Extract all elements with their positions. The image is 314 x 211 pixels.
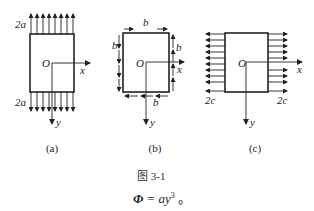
x-axis-label-a: x — [79, 64, 85, 76]
left-load-arrows-c — [206, 34, 225, 91]
origin-label-a: O — [42, 57, 50, 69]
subfigure-c — [206, 33, 302, 124]
top-load-label-a: 2a — [15, 18, 27, 30]
y-axis-label-b: y — [149, 116, 155, 128]
y-axis-label-c: y — [249, 116, 255, 128]
right-load-label-c: 2c — [277, 94, 288, 106]
figure-caption: 图 3-1 — [137, 167, 165, 183]
subfigure-label-a: (a) — [46, 142, 59, 155]
right-load-label-b: b — [176, 41, 182, 53]
top-load-label-b: b — [143, 16, 149, 28]
subfigure-label-c: (c) — [249, 142, 262, 155]
top-load-arrows-a — [31, 14, 73, 34]
left-load-label-c: 2c — [205, 94, 216, 106]
formula-rhs: = ay — [143, 191, 171, 206]
x-axis-label-b: x — [176, 63, 182, 75]
subfigure-b — [119, 29, 184, 124]
formula-period: 。 — [175, 191, 191, 206]
y-axis-label-a: y — [55, 116, 61, 128]
formula-phi: Φ — [133, 191, 143, 206]
origin-label-c: O — [238, 57, 246, 69]
x-axis-label-c: x — [296, 63, 302, 75]
subfigure-label-b: (b) — [149, 142, 162, 155]
right-load-arrows-c — [268, 34, 287, 91]
plate-c — [225, 33, 268, 92]
bottom-load-label-b: b — [153, 96, 159, 108]
origin-label-b: O — [136, 57, 144, 69]
left-load-label-b: b — [112, 39, 118, 51]
bottom-load-label-a: 2a — [15, 96, 27, 108]
formula: Φ = ay3 。 — [133, 188, 191, 207]
